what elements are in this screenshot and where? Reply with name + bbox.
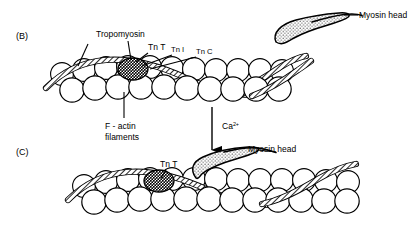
panel-c-label: (C) bbox=[16, 147, 29, 157]
myosin-head-label: Myosin head bbox=[359, 10, 407, 20]
troponin-complex-c bbox=[144, 170, 174, 192]
tn-i-label: Tn I bbox=[171, 45, 184, 54]
tn-t-label-c: Tn T bbox=[160, 159, 177, 169]
tn-t-label: Tn T bbox=[148, 42, 165, 52]
panel-b-label: (B) bbox=[16, 31, 28, 41]
f-actin-label-line2: filaments bbox=[105, 132, 139, 142]
label-myosin-head-group-c: Myosin head bbox=[248, 144, 296, 154]
troponin-complex-b bbox=[118, 58, 148, 80]
myofilament-regulation-figure: (B) bbox=[0, 0, 409, 228]
tropomyosin-label: Tropomyosin bbox=[96, 29, 145, 39]
myosin-head-label-c: Myosin head bbox=[248, 144, 296, 154]
figure-canvas: (B) bbox=[0, 0, 409, 228]
tn-c-label: Tn C bbox=[196, 47, 213, 56]
f-actin-label-line1: F - actin bbox=[105, 121, 136, 131]
